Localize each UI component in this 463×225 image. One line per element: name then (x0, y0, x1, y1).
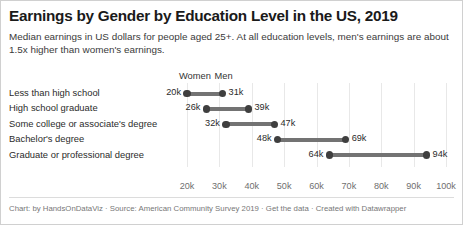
chart-subtitle: Median earnings in US dollars for people… (9, 31, 453, 56)
value-label-men: 31k (229, 87, 244, 97)
connector-line (187, 92, 223, 96)
connector-line (226, 122, 275, 126)
x-tick-label: 40k (244, 181, 259, 191)
dot-men (423, 151, 430, 158)
category-label: Bachelor's degree (9, 133, 84, 144)
x-tick-label: 50k (277, 181, 292, 191)
legend-label-men: Men (215, 71, 233, 81)
value-label-men: 69k (352, 133, 367, 143)
dot-women (183, 90, 190, 97)
x-tick-label: 100k (436, 181, 456, 191)
footer-divider (9, 197, 454, 198)
chart-row: High school graduate26k39k (1, 101, 463, 116)
category-label: Less than high school (9, 87, 100, 98)
value-label-men: 47k (280, 118, 295, 128)
value-label-women: 20k (166, 87, 181, 97)
category-label: Graduate or professional degree (9, 149, 144, 160)
chart-credits: Chart: by HandsOnDataViz · Source: Ameri… (9, 204, 406, 213)
chart-row: Graduate or professional degree64k94k (1, 148, 463, 163)
value-label-men: 94k (433, 149, 448, 159)
x-tick-label: 60k (309, 181, 324, 191)
legend-label-women: Women (179, 71, 211, 81)
category-label: High school graduate (9, 102, 98, 113)
chart-container: Earnings by Gender by Education Level in… (0, 0, 463, 225)
connector-line (329, 153, 426, 157)
chart-row: Less than high school20k31k (1, 86, 463, 101)
x-tick-label: 90k (406, 181, 421, 191)
dot-men (219, 90, 226, 97)
dot-women (274, 136, 281, 143)
dot-men (342, 136, 349, 143)
dot-men (245, 105, 252, 112)
dot-women (203, 105, 210, 112)
dot-women (222, 121, 229, 128)
value-label-men: 39k (255, 102, 270, 112)
connector-line (206, 107, 248, 111)
chart-row: Bachelor's degree48k69k (1, 132, 463, 147)
dot-men (271, 121, 278, 128)
connector-line (278, 138, 346, 142)
x-tick-label: 80k (374, 181, 389, 191)
x-tick-label: 20k (180, 181, 195, 191)
value-label-women: 26k (186, 102, 201, 112)
chart-row: Some college or associate's degree32k47k (1, 117, 463, 132)
value-label-women: 64k (309, 149, 324, 159)
value-label-women: 32k (205, 118, 220, 128)
chart-title: Earnings by Gender by Education Level in… (9, 7, 398, 25)
x-tick-label: 70k (342, 181, 357, 191)
dot-women (326, 151, 333, 158)
x-tick-label: 30k (212, 181, 227, 191)
plot-area: WomenMen Less than high school20k31kHigh… (1, 71, 463, 193)
category-label: Some college or associate's degree (9, 118, 157, 129)
value-label-women: 48k (257, 133, 272, 143)
